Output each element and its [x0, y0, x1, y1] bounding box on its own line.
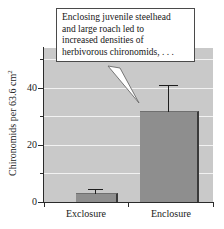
callout-line-4: herbivorous chironomids, . . .: [62, 47, 190, 59]
callout-line-1: Enclosing juvenile steelhead: [62, 12, 190, 24]
x-tick-left: [44, 202, 45, 207]
x-tick-label-exclosure: Exclosure: [44, 208, 128, 219]
y-tick-label-0: 0: [32, 197, 37, 207]
error-bar-stem-enclosure: [168, 85, 169, 112]
y-axis-line: [43, 47, 44, 203]
bar-exclosure: [76, 193, 118, 202]
x-tick-middle: [128, 202, 129, 207]
bar-chart-figure: Chironomids per 63.6 cm2 0 20 40 Exclosu: [0, 0, 224, 229]
callout-box: Enclosing juvenile steelhead and large r…: [56, 8, 195, 62]
error-bar-cap-exclosure: [88, 189, 103, 190]
bar-enclosure: [140, 111, 199, 202]
callout-line-3: increased densities of: [62, 35, 190, 47]
callout-line-2: and large roach led to: [62, 24, 190, 36]
y-tick-label-20: 20: [27, 140, 37, 150]
x-tick-right: [213, 202, 214, 207]
x-tick-label-enclosure: Enclosure: [129, 208, 213, 219]
callout-pointer-icon: [100, 66, 144, 104]
error-bar-cap-enclosure: [159, 85, 178, 86]
y-tick-label-40: 40: [27, 83, 37, 93]
y-tick-label-group: 0 20 40: [0, 0, 37, 229]
